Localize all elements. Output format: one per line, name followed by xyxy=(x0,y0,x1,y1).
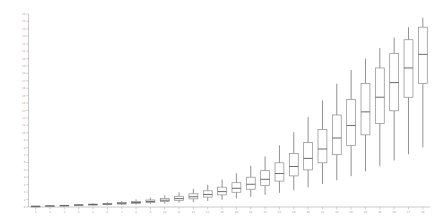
x-tick-label: 23 xyxy=(349,211,353,214)
x-tick-label: 6 xyxy=(107,211,109,214)
x-tick-label: 12 xyxy=(192,211,196,214)
box-plot-item xyxy=(318,100,327,184)
plot-area: 0123456789101112131415161718192021222324… xyxy=(0,0,435,223)
y-tick-label: 10 xyxy=(22,132,26,135)
box-plot-item xyxy=(246,166,255,197)
y-tick-label: 25 xyxy=(22,20,26,23)
y-tick-label: 15 xyxy=(22,95,26,98)
box-plot-item xyxy=(89,203,98,205)
box-plot-item xyxy=(189,189,198,202)
box-body xyxy=(261,171,270,186)
box-plot-item xyxy=(261,156,270,195)
x-tick-label: 28 xyxy=(421,211,425,214)
x-tick-label: 9 xyxy=(150,211,152,214)
x-tick-label: 13 xyxy=(206,211,210,214)
box-body xyxy=(347,99,356,145)
x-tick-label: 4 xyxy=(78,211,80,214)
x-tick-label: 14 xyxy=(220,211,224,214)
box-plot-item xyxy=(275,145,284,193)
box-plot-item xyxy=(146,198,155,205)
box-body xyxy=(375,68,384,123)
box-plot-item xyxy=(117,201,126,205)
y-tick-label: 0 xyxy=(24,206,26,209)
x-tick-label: 26 xyxy=(392,211,396,214)
y-tick-label: 18 xyxy=(22,72,26,75)
y-tick-label: 3 xyxy=(24,184,26,187)
x-axis: 1234567891011121314151617181920212223242… xyxy=(29,207,431,214)
y-tick-label: 12 xyxy=(22,117,26,120)
y-tick-label: 6 xyxy=(24,161,26,164)
y-tick-label: 1 xyxy=(24,199,26,202)
y-axis: 0123456789101112131415161718192021222324… xyxy=(22,13,29,209)
box-plot-item xyxy=(375,48,384,166)
x-tick-label: 17 xyxy=(263,211,267,214)
box-body xyxy=(232,183,241,193)
box-body xyxy=(418,27,427,83)
y-tick-label: 7 xyxy=(24,154,26,157)
y-tick-label: 2 xyxy=(24,191,26,194)
box-body xyxy=(318,130,327,163)
y-tick-label: 21 xyxy=(22,50,26,53)
x-tick-label: 20 xyxy=(306,211,310,214)
box-plot-item xyxy=(160,195,169,203)
box-body xyxy=(332,115,341,155)
box-plot-item xyxy=(46,206,55,207)
y-tick-label: 11 xyxy=(22,124,26,127)
box-body xyxy=(390,53,399,110)
x-tick-label: 18 xyxy=(278,211,282,214)
box-plot-item xyxy=(74,204,83,206)
x-tick-label: 21 xyxy=(321,211,325,214)
box-plot-item xyxy=(418,18,427,148)
x-tick-label: 19 xyxy=(292,211,296,214)
box-body xyxy=(246,177,255,189)
box-body xyxy=(275,163,284,181)
box-plot-item xyxy=(132,199,141,204)
boxplot-figure: 0123456789101112131415161718192021222324… xyxy=(0,0,435,223)
box-plot-item xyxy=(390,38,399,161)
x-tick-label: 5 xyxy=(92,211,94,214)
x-tick-label: 7 xyxy=(121,211,123,214)
y-tick-label: 26 xyxy=(22,13,26,16)
box-plot-item xyxy=(304,117,313,187)
x-tick-label: 24 xyxy=(364,211,368,214)
y-tick-label: 23 xyxy=(22,35,26,38)
x-tick-label: 22 xyxy=(335,211,339,214)
box-body xyxy=(218,187,227,195)
y-tick-label: 20 xyxy=(22,58,26,61)
x-tick-label: 8 xyxy=(135,211,137,214)
chart-canvas: 0123456789101112131415161718192021222324… xyxy=(0,0,435,223)
box-plot-item xyxy=(404,27,413,154)
box-plot-item xyxy=(361,59,370,172)
x-tick-label: 16 xyxy=(249,211,253,214)
box-body xyxy=(361,84,370,135)
y-tick-label: 14 xyxy=(22,102,26,105)
box-plot-item xyxy=(218,180,227,200)
box-body xyxy=(304,142,313,169)
y-tick-label: 17 xyxy=(22,80,26,83)
box-series xyxy=(31,18,427,207)
box-body xyxy=(404,40,413,97)
box-plot-item xyxy=(103,202,112,205)
box-plot-item xyxy=(289,132,298,190)
x-tick-label: 1 xyxy=(35,211,37,214)
x-tick-label: 27 xyxy=(407,211,411,214)
box-plot-item xyxy=(332,84,341,181)
y-tick-label: 19 xyxy=(22,65,26,68)
x-tick-label: 3 xyxy=(64,211,66,214)
x-tick-label: 2 xyxy=(49,211,51,214)
x-tick-label: 15 xyxy=(235,211,239,214)
y-tick-label: 24 xyxy=(22,28,26,31)
y-tick-label: 9 xyxy=(24,139,26,142)
box-plot-item xyxy=(60,205,69,206)
y-tick-label: 5 xyxy=(24,169,26,172)
x-tick-label: 11 xyxy=(177,211,181,214)
y-tick-label: 4 xyxy=(24,176,26,179)
box-plot-item xyxy=(175,192,184,202)
y-tick-label: 16 xyxy=(22,87,26,90)
y-tick-label: 13 xyxy=(22,110,26,113)
box-plot-item xyxy=(347,70,356,176)
box-plot-item xyxy=(232,173,241,198)
y-tick-label: 8 xyxy=(24,147,26,150)
x-tick-label: 25 xyxy=(378,211,382,214)
box-plot-item xyxy=(203,185,212,201)
